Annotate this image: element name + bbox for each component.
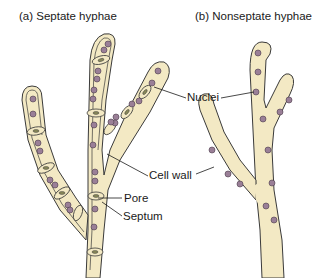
label-cell-wall: Cell wall — [107, 154, 214, 181]
svg-text:Septum: Septum — [123, 210, 163, 222]
diagram-svg: (a) Septate hyphae (b) Nonseptate hyphae — [0, 0, 321, 278]
septate-hypha — [22, 34, 169, 278]
svg-text:Cell wall: Cell wall — [149, 169, 192, 181]
panel-b-title: (b) Nonseptate hyphae — [195, 10, 312, 22]
label-nuclei: Nuclei — [154, 87, 254, 103]
nonseptate-hypha — [199, 42, 294, 278]
hyphae-diagram: (a) Septate hyphae (b) Nonseptate hyphae — [0, 0, 321, 278]
label-septum: Septum — [102, 202, 163, 222]
svg-text:Nuclei: Nuclei — [187, 91, 219, 103]
svg-text:Pore: Pore — [124, 192, 148, 204]
panel-a-title: (a) Septate hyphae — [19, 10, 117, 22]
